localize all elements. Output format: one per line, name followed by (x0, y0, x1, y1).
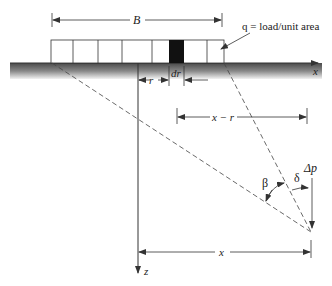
ground-surface (10, 63, 322, 79)
r-label: r (149, 74, 154, 86)
strip-load-diagram: x B q = load/unit area z r dr (0, 0, 332, 286)
beta-label: β (262, 176, 268, 190)
delta-label: δ (294, 171, 300, 185)
dr-element (169, 40, 184, 63)
z-axis-label: z (143, 265, 149, 277)
x-axis-label: x (312, 65, 318, 77)
x-minus-r-dimension (177, 108, 307, 124)
influence-lines (52, 63, 311, 232)
delta-p-label: Δp (303, 161, 317, 175)
x-dimension (139, 240, 311, 258)
x-minus-r-label: x − r (211, 111, 235, 123)
delta-arc (292, 188, 308, 190)
load-pointer (221, 33, 250, 49)
beta-arc (266, 183, 284, 201)
load-label: q = load/unit area (242, 20, 319, 32)
x-dimension-label: x (218, 246, 224, 258)
strip-load (51, 40, 224, 63)
diagram-svg: x B q = load/unit area z r dr (0, 0, 332, 286)
width-label: B (133, 13, 141, 27)
dr-label: dr (171, 67, 182, 79)
